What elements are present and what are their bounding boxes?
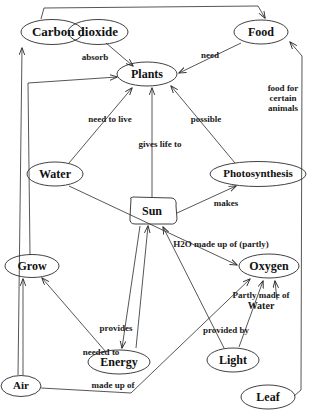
edge-water-plants (69, 88, 132, 163)
concept-map: Carbondioxide Food Plants Water Photosyn… (0, 0, 309, 413)
edge-photosynthesis-plants (171, 86, 235, 163)
edge-label-made-up-of: made up of (91, 380, 134, 390)
node-grow[interactable]: Grow (17, 260, 46, 273)
edge-label-absorb: absorb (82, 52, 109, 62)
edge-label-makes: makes (214, 198, 239, 208)
edge-air-oxygen (41, 279, 250, 393)
edge-label-food-for-certain-animals: food for certain animals (268, 83, 299, 113)
edge-air-carbondioxide (18, 48, 22, 375)
edge-label-line-2: Water (248, 300, 275, 311)
node-label-carbon: Carbon (32, 24, 75, 39)
edge-carbondioxide-plants (106, 43, 133, 66)
node-label-dioxide: dioxide (78, 24, 118, 39)
node-photosynthesis[interactable]: Photosynthesis (223, 168, 293, 180)
edges (18, 6, 302, 396)
node-air[interactable]: Air (13, 380, 29, 392)
node-plants[interactable]: Plants (131, 68, 163, 81)
edge-energy-grow (42, 278, 106, 352)
node-carbon-dioxide[interactable]: Carbondioxide (32, 25, 118, 39)
node-leaf[interactable]: Leaf (256, 391, 279, 404)
node-light[interactable]: Light (219, 354, 247, 367)
edge-label-line-3: animals (268, 103, 298, 113)
edge-energy-sun (136, 226, 148, 348)
edge-label-provided-by: provided by (203, 325, 249, 335)
edge-label-need-to-live: need to live (88, 114, 132, 124)
edge-label-line-2: certain (270, 93, 297, 103)
node-energy[interactable]: Energy (100, 356, 137, 369)
edge-label-provides: provides (100, 323, 133, 333)
edge-label-possible: possible (191, 114, 222, 124)
node-sun[interactable]: Sun (142, 205, 162, 218)
edge-carbondioxide-food (41, 6, 265, 19)
node-food[interactable]: Food (248, 26, 274, 39)
edge-label-h2o-made-up-of-partly: H2O made up of (partly) (173, 239, 269, 249)
edge-label-need: need (201, 50, 219, 60)
edge-label-line-1: food for (268, 83, 299, 93)
edge-label-gives-life-to: gives life to (139, 139, 182, 149)
edge-label-line-1: Partly made of (233, 290, 290, 300)
node-oxygen[interactable]: Oxygen (249, 260, 288, 273)
edge-label-partly-made-of-water: Partly made of Water (233, 290, 290, 311)
edge-label-needed-to: needed to (83, 347, 120, 357)
node-water[interactable]: Water (39, 168, 71, 181)
